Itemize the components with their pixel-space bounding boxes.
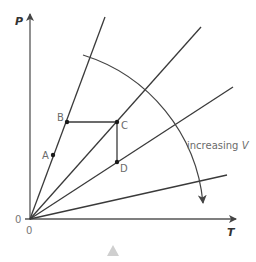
label-a: A	[42, 150, 49, 161]
t-axis-label: T	[227, 226, 236, 239]
increasing-v-annotation: increasing V	[187, 140, 250, 151]
p-axis-label: P	[15, 15, 23, 28]
origin-x-label: 0	[26, 225, 32, 236]
origin-y-label: 0	[15, 214, 21, 225]
up-triangle-icon[interactable]	[107, 245, 119, 256]
label-d: D	[120, 163, 128, 174]
label-b: B	[57, 112, 64, 123]
p-t-diagram: A B C D P T 0 0 increasing V	[0, 0, 256, 262]
isochore-line-1	[30, 17, 105, 219]
point-a	[51, 153, 55, 157]
annotation-text: increasing	[187, 140, 242, 151]
annotation-variable: V	[242, 140, 250, 151]
point-d	[115, 160, 119, 164]
isochore-line-4	[30, 175, 227, 219]
increasing-v-arc-arrow	[83, 55, 203, 203]
label-c: C	[121, 120, 128, 131]
point-b	[65, 120, 69, 124]
point-c	[115, 120, 119, 124]
